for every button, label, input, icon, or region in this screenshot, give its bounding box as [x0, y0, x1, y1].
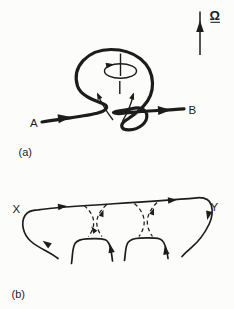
point-a-label: A — [30, 117, 38, 129]
flow-arrow-xy-2 — [168, 197, 178, 204]
panel-b-label: (b) — [12, 288, 25, 300]
flow-arrow-arch-1 — [107, 243, 115, 253]
flow-arrow-left-hook — [41, 238, 52, 248]
omega-symbol: Ω — [210, 8, 220, 23]
flow-arrow-left — [95, 91, 113, 120]
loop-rotation-axis — [120, 54, 121, 95]
point-b-label: B — [189, 104, 197, 116]
omega-rotation-arrow-icon — [196, 12, 204, 56]
reconnection-dashed-1 — [84, 205, 107, 237]
point-y-label: Y — [211, 201, 219, 213]
dashed-arrow-2a — [149, 207, 156, 215]
flow-direction-arrow-b — [158, 105, 171, 115]
figure-page: { "panel_a": { "label": "(a)", "point_le… — [0, 0, 234, 309]
point-x-label: X — [13, 203, 21, 215]
panel-b: X Y (b) — [12, 197, 219, 300]
flow-arrow-xy-1 — [58, 203, 68, 210]
reconnection-dashed-2 — [135, 203, 158, 237]
vortex-arch-1 — [72, 239, 113, 264]
vortex-line-xy — [23, 198, 212, 259]
panel-a: Ω A B (a) — [19, 8, 221, 159]
panel-a-label: (a) — [19, 146, 32, 158]
vortex-figure: Ω A B (a) — [0, 0, 234, 309]
vortex-arch-2 — [125, 238, 169, 261]
